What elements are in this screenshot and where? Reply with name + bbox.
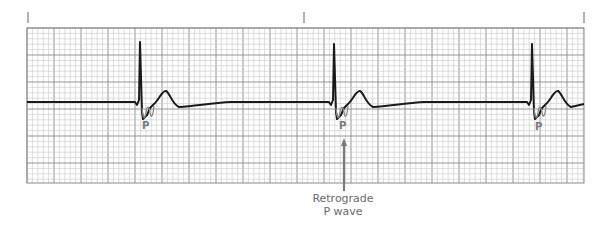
p-label-1: P bbox=[142, 120, 149, 131]
ecg-figure: P P P Retrograde P wave bbox=[0, 0, 609, 233]
annotation-line-2: P wave bbox=[293, 205, 393, 218]
p-label-3: P bbox=[535, 121, 542, 132]
ecg-grid bbox=[27, 28, 584, 183]
timing-marks bbox=[28, 12, 584, 23]
ecg-trace bbox=[27, 42, 584, 119]
annotation-line-1: Retrograde bbox=[293, 192, 393, 205]
p-label-2: P bbox=[339, 120, 346, 131]
